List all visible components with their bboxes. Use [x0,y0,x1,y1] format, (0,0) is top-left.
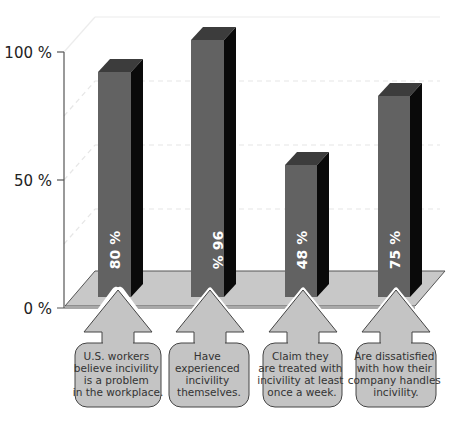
callout-1-text: U.S. workers believe incivility is a pro… [73,350,163,398]
bar-1-value: 80 % [107,231,123,269]
y-tick-50: 50 % [14,172,52,190]
bar-2: 96 % [191,27,236,297]
y-tick-100: 100 % [4,44,52,62]
bar-2-value: 96 % [210,231,226,269]
callout-1: U.S. workers believe incivility is a pro… [73,289,163,407]
bar-3: 48 % [285,152,329,297]
bar-3-value: 48 % [294,231,310,269]
bar-4: 75 % [378,83,422,297]
chart-canvas: 100 % 50 % 0 % 80 % 96 % 48 % 75 % U.S. … [0,0,460,423]
bar-1: 80 % [98,59,143,297]
y-tick-0: 0 % [23,300,52,318]
bar-4-value: 75 % [387,231,403,269]
